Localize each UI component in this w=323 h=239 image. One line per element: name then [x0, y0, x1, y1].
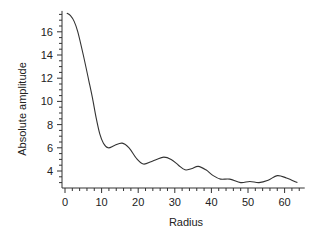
x-tick-label: 20	[132, 196, 144, 208]
y-tick-label: 10	[41, 95, 53, 107]
x-tick-label: 50	[242, 196, 254, 208]
x-axis: 0102030405060	[62, 188, 305, 208]
y-tick-label: 14	[41, 49, 53, 61]
y-axis-label: Absolute amplitude	[16, 62, 28, 156]
y-tick-label: 6	[47, 142, 53, 154]
y-tick-label: 16	[41, 26, 53, 38]
x-tick-label: 10	[95, 196, 107, 208]
x-axis-label: Radius	[169, 216, 204, 228]
y-tick-label: 4	[47, 165, 53, 177]
x-tick-label: 60	[278, 196, 290, 208]
chart: 46810121416 0102030405060 Radius Absolut…	[0, 0, 323, 239]
y-tick-label: 12	[41, 72, 53, 84]
y-axis: 46810121416	[41, 11, 62, 188]
y-tick-label: 8	[47, 119, 53, 131]
x-tick-label: 30	[169, 196, 181, 208]
x-tick-label: 0	[62, 196, 68, 208]
x-tick-label: 40	[205, 196, 217, 208]
amplitude-line	[67, 13, 298, 182]
